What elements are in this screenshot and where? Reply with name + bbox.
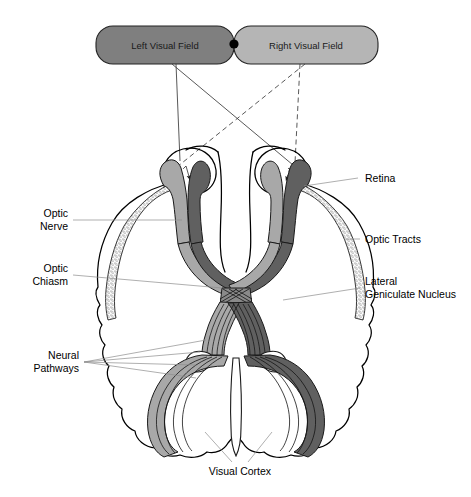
optic-tracts: [202, 302, 270, 355]
left-retina-temporal-lightgray: [160, 160, 190, 244]
longitudinal-fissure: [231, 358, 242, 456]
ray-right-field-to-right-eye: [295, 64, 300, 163]
ray-right-field-to-left-eye: [172, 64, 305, 171]
optic-chiasm-label-line2: Chiasm: [32, 275, 68, 287]
lateral-geniculate-nucleus-label-line2: Geniculate Nucleus: [365, 288, 456, 300]
neural-pathways-label-line2: Pathways: [33, 362, 79, 374]
frontal-lobe-right-medial: [246, 152, 253, 272]
leader-retina: [304, 178, 358, 186]
optic-nerve-label-line1: Optic: [43, 207, 68, 219]
lateral-geniculate-nucleus-label-line1: Lateral: [365, 275, 397, 287]
ray-lines: [172, 64, 305, 181]
retina-label: Retina: [365, 172, 396, 184]
right-optic-tract: [228, 302, 270, 355]
optic-radiations: [148, 355, 325, 457]
leader-lgn: [283, 288, 360, 300]
fixation-dot-icon: [229, 39, 238, 48]
optic-nerve-label-line2: Nerve: [40, 220, 68, 232]
visual-pathway-diagram: Left Visual Field Right Visual Field: [0, 0, 471, 497]
optic-chiasm-label-line1: Optic: [43, 262, 68, 274]
eyes-and-retinas: [160, 148, 311, 244]
right-temporal-cortex-band: [299, 185, 365, 320]
optic-tracts-label: Optic Tracts: [365, 233, 421, 245]
right-retina-temporal-darkgray: [281, 160, 311, 244]
neural-pathways-label-line1: Neural: [48, 349, 79, 361]
right-retina-nasal-lightgray: [261, 161, 283, 244]
right-visual-field-label: Right Visual Field: [269, 40, 343, 51]
right-optic-radiation: [244, 355, 324, 457]
left-retina-nasal-darkgray: [188, 161, 210, 244]
left-temporal-cortex-band: [106, 185, 172, 320]
ray-left-field-to-right-eye: [172, 64, 299, 170]
visual-field-boxes: Left Visual Field Right Visual Field: [96, 26, 378, 64]
left-optic-radiation: [148, 355, 228, 457]
left-visual-field-label: Left Visual Field: [131, 40, 198, 51]
frontal-lobe-left-medial: [218, 152, 225, 272]
ray-left-field-to-left-eye: [176, 64, 180, 161]
visual-cortex-label: Visual Cortex: [209, 465, 272, 477]
